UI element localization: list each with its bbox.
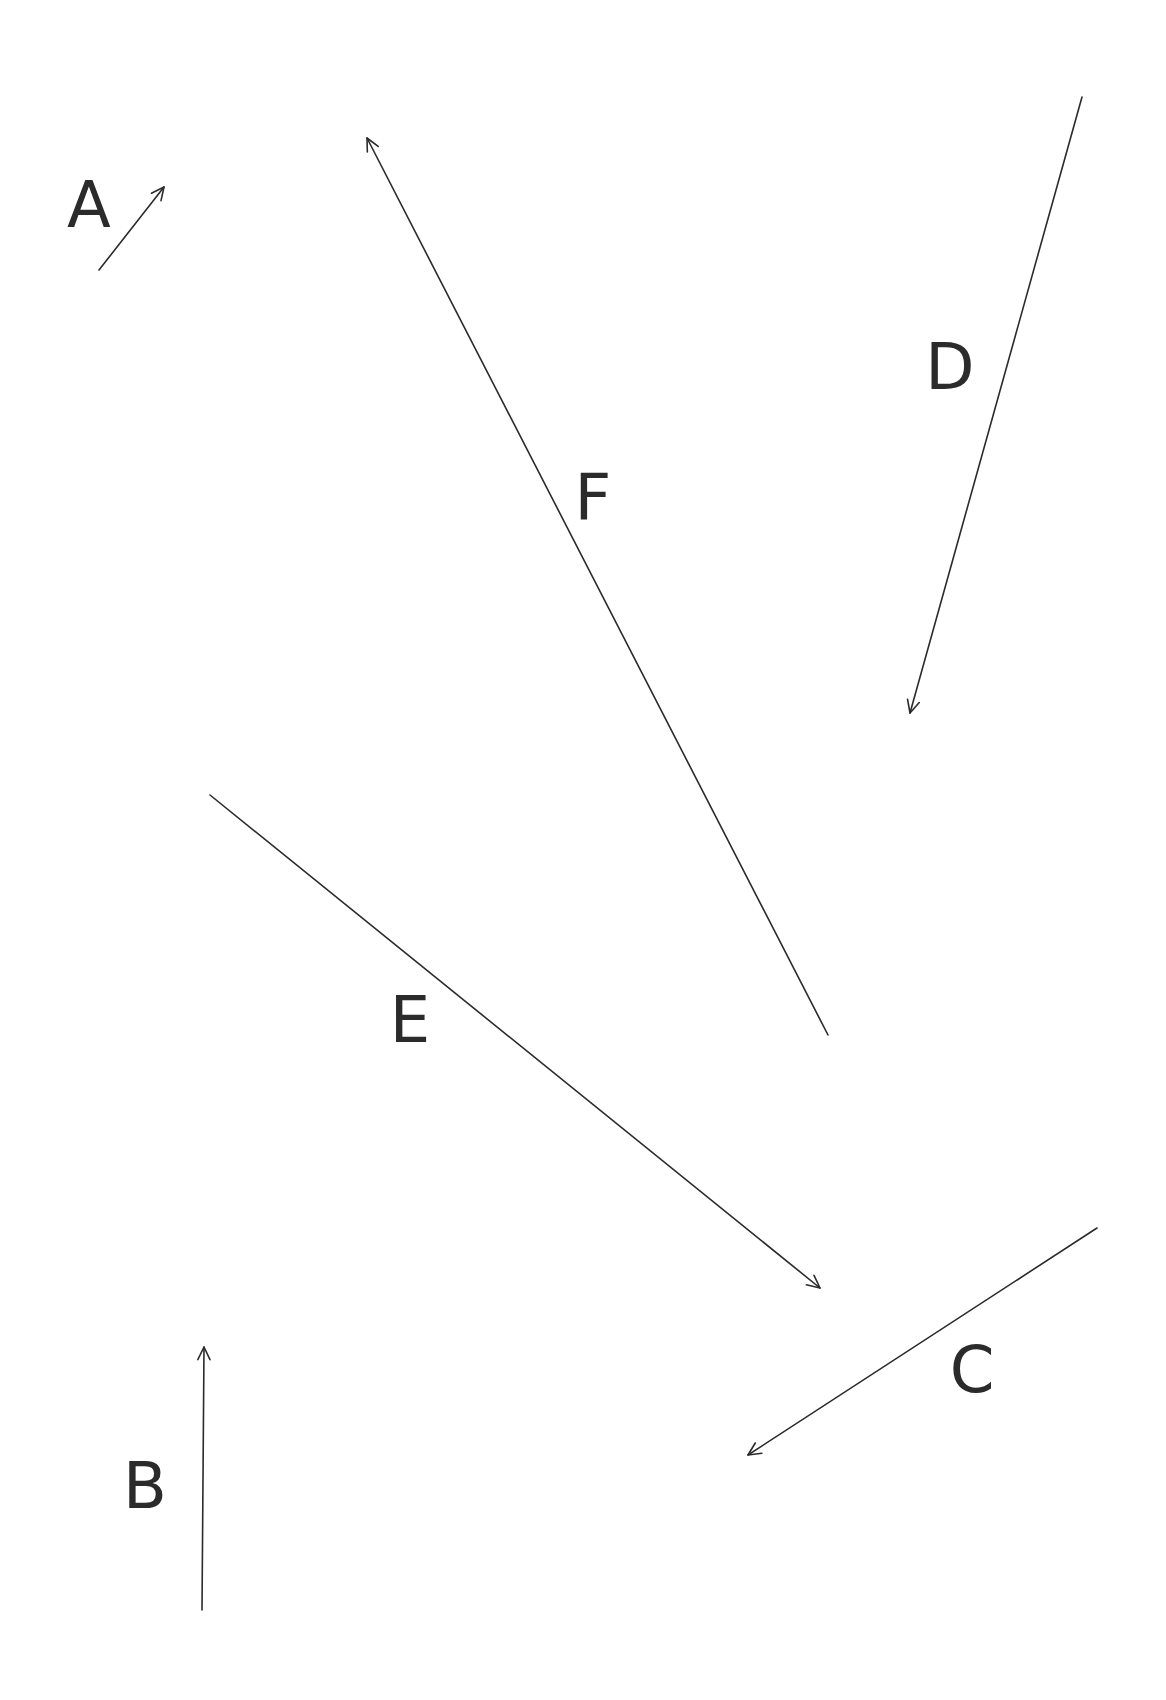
vector-label-e: E: [390, 988, 430, 1052]
vector-c-arrow: [748, 1228, 1097, 1455]
vector-label-b: B: [123, 1454, 167, 1518]
vector-shaft: [202, 1347, 204, 1610]
vector-label-a: A: [67, 173, 111, 237]
vector-shaft: [748, 1228, 1097, 1455]
vector-shaft: [210, 795, 820, 1288]
vector-label-d: D: [925, 335, 974, 399]
vector-e-arrow: [210, 795, 820, 1288]
vector-label-c: C: [950, 1338, 995, 1402]
vector-f-arrow: [367, 138, 828, 1035]
vector-diagram: [0, 0, 1166, 1700]
vector-d-arrow: [908, 97, 1082, 713]
vector-shaft: [910, 97, 1082, 713]
vector-label-f: F: [575, 465, 612, 529]
vector-shaft: [367, 138, 828, 1035]
vector-b-arrow: [198, 1347, 210, 1610]
